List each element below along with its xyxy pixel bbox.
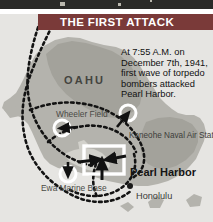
map-label-honolulu: Honolulu (136, 191, 172, 201)
map-label-wheeler-field: Wheeler Field (56, 110, 108, 119)
honolulu-city-dot (127, 183, 133, 189)
top-cropped-strip (0, 0, 213, 9)
map-label-kaneohe-naval-air-station: Kaneohe Naval Air Station (129, 131, 213, 140)
map-label-oahu: OAHU (64, 74, 105, 86)
map-label-ewa-marine-base: Ewa Marine Base (41, 184, 107, 193)
strip-fleck (118, 3, 121, 6)
map-label-pearl-harbor: Pearl Harbor (130, 166, 196, 178)
title-banner: THE FIRST ATTACK (38, 14, 213, 30)
strip-fleck (150, 0, 152, 2)
pearl-harbor-attack-map-figure: OAHU Wheeler Field Kaneohe Naval Air Sta… (0, 0, 213, 222)
strip-fleck (60, 2, 65, 6)
caption-text: At 7:55 A.M. on December 7th, 1941, firs… (121, 47, 209, 100)
map-canvas: OAHU Wheeler Field Kaneohe Naval Air Sta… (0, 14, 213, 222)
banner-title: THE FIRST ATTACK (60, 16, 174, 29)
